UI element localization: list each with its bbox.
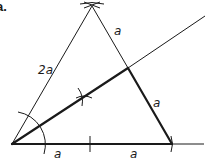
label-lower-right: a — [153, 96, 160, 110]
apex-arc-mark — [80, 3, 104, 5]
bisector-segment — [12, 68, 128, 144]
angle-arc — [18, 112, 45, 154]
label-upper-right: a — [114, 24, 121, 38]
part-label: a. — [0, 0, 7, 14]
ray-extension — [128, 16, 205, 68]
label-base-left: a — [54, 147, 61, 161]
geometric-construction: a. 2a a a a a — [0, 0, 206, 162]
lower-right-side — [128, 68, 172, 144]
label-left-side: 2a — [38, 63, 53, 77]
upper-right-side — [92, 6, 128, 68]
label-base-right: a — [130, 147, 137, 161]
